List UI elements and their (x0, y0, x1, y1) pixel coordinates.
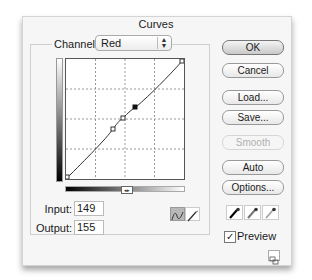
pencil-tool-button[interactable] (185, 207, 200, 221)
output-label: Output: (22, 222, 72, 234)
curve-point-black (66, 175, 69, 179)
gray-eyedropper-icon (245, 207, 260, 220)
output-gradient-bar (56, 58, 63, 182)
curve-graph[interactable] (65, 58, 185, 180)
save-button[interactable]: Save... (222, 110, 284, 125)
load-button[interactable]: Load... (222, 90, 284, 105)
white-eyedropper-button[interactable] (262, 205, 279, 220)
curve-tool-button[interactable] (170, 207, 185, 221)
dialog-title: Curves (0, 18, 312, 30)
gradient-toggle-icon[interactable]: ◂▸ (121, 186, 133, 194)
cancel-button[interactable]: Cancel (222, 63, 284, 78)
updown-arrows-icon: ▲▼ (157, 37, 170, 49)
options-button[interactable]: Options... (222, 180, 284, 195)
channel-select[interactable]: Red ▲▼ (95, 35, 172, 51)
black-eyedropper-icon (227, 207, 242, 220)
auto-button[interactable]: Auto (222, 160, 284, 175)
white-eyedropper-icon (263, 207, 278, 220)
smooth-button[interactable]: Smooth (222, 135, 284, 150)
ok-button[interactable]: OK (222, 40, 284, 55)
expand-view-icon (269, 256, 279, 265)
curve-point-white (180, 59, 184, 63)
curve-tool-icon (171, 210, 184, 222)
output-field[interactable]: 155 (74, 220, 104, 235)
gray-eyedropper-button[interactable] (244, 205, 261, 220)
preview-label[interactable]: Preview (237, 230, 276, 242)
black-eyedropper-button[interactable] (226, 205, 243, 220)
curve-point-1 (111, 127, 115, 131)
channel-label: Channel: (52, 38, 100, 50)
expand-view-button[interactable] (268, 250, 280, 261)
channel-value: Red (101, 37, 121, 49)
pencil-tool-icon (186, 210, 199, 222)
input-label: Input: (22, 203, 72, 215)
curve-point-2 (121, 116, 125, 120)
checkmark-icon: ✓ (226, 231, 234, 242)
input-field[interactable]: 149 (74, 201, 104, 216)
curve-point-selected (133, 105, 137, 109)
input-gradient-bar[interactable]: ◂▸ (65, 186, 185, 192)
preview-checkbox[interactable]: ✓ (224, 231, 236, 243)
